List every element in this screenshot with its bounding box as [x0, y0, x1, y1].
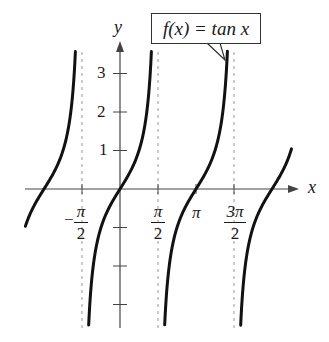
fraction-bar — [224, 222, 246, 223]
tan-branch-3 — [165, 51, 228, 325]
y-tick-label-3: 3 — [97, 64, 106, 81]
x-tick-label-pi: π — [192, 204, 201, 221]
x-axis-label: x — [308, 178, 316, 196]
x-tick-label-neg-pi-over-2: π 2 — [74, 203, 88, 242]
denominator: 2 — [77, 225, 86, 242]
y-tick-label-2: 2 — [97, 103, 106, 120]
callout-tail — [207, 43, 225, 60]
y-axis-label: y — [114, 18, 122, 36]
fraction-bar — [74, 222, 88, 223]
function-label-callout: f(x) = tan x — [151, 13, 261, 44]
y-axis-arrow-icon — [116, 41, 124, 52]
function-label-text: f(x) = tan x — [163, 18, 249, 40]
denominator: 2 — [231, 225, 240, 242]
x-tick-neg-sign: − — [64, 210, 74, 230]
y-tick-label-1: 1 — [99, 141, 108, 158]
tan-plot — [0, 0, 329, 342]
tan-branch-1 — [25, 52, 75, 227]
fraction-bar — [151, 222, 165, 223]
x-axis-arrow-icon — [288, 185, 299, 193]
axes — [25, 41, 299, 328]
numerator: 3π — [226, 203, 243, 220]
numerator: π — [77, 203, 86, 220]
tan-branch-4 — [241, 149, 292, 325]
numerator: π — [154, 203, 163, 220]
denominator: 2 — [154, 225, 163, 242]
x-tick-label-pi-over-2: π 2 — [151, 203, 165, 242]
x-tick-label-3pi-over-2: 3π 2 — [224, 203, 246, 242]
